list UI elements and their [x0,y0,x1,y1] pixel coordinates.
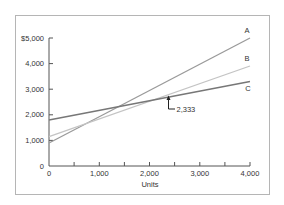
x-tick-label: 1,000 [90,169,109,178]
y-ticks [49,38,53,140]
x-tick-labels: 0 1,000 2,000 3,000 4,000 [47,169,259,178]
x-tick-label: 0 [47,169,51,178]
x-axis-label: Units [141,180,158,189]
x-tick-label: 3,000 [190,169,209,178]
series-label-b: B [244,54,249,63]
y-tick-label: 4,000 [25,59,44,68]
y-tick-label: 2,000 [25,110,44,119]
series-line-a [49,38,250,143]
x-ticks [74,162,250,166]
y-tick-label: 3,000 [25,85,44,94]
series-label-c: C [245,84,251,93]
y-tick-label: 1,000 [25,136,44,145]
series-label-a: A [244,26,249,35]
x-tick-label: 2,000 [140,169,159,178]
x-tick-label: 4,000 [241,169,260,178]
annotation-label: 2,333 [177,105,196,114]
series-line-c [49,82,250,121]
y-tick-labels: $5,000 4,000 3,000 2,000 1,000 0 [21,34,44,171]
line-chart: $5,000 4,000 3,000 2,000 1,000 0 0 1,000… [0,0,284,205]
annotation-arrow-icon [167,96,176,110]
y-tick-label: $5,000 [21,34,44,43]
y-tick-label: 0 [40,162,44,171]
